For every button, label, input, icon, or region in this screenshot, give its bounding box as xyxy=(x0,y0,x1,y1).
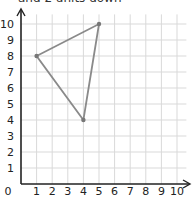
x-tick-label: 8 xyxy=(142,185,149,198)
x-tick-label: 6 xyxy=(111,185,118,198)
coordinate-grid: 01234567891012345678910 xyxy=(0,0,192,198)
vertex-point xyxy=(34,54,38,58)
vertex-point xyxy=(97,22,101,26)
y-tick-label: 9 xyxy=(7,34,14,47)
y-tick-label: 8 xyxy=(7,50,14,63)
y-tick-label: 7 xyxy=(7,66,14,79)
vertex-point xyxy=(81,118,85,122)
x-tick-label: 9 xyxy=(158,185,165,198)
y-tick-label: 4 xyxy=(7,114,14,127)
y-tick-label: 1 xyxy=(7,162,14,175)
y-tick-label: 3 xyxy=(7,130,14,143)
x-tick-label: 7 xyxy=(127,185,134,198)
y-tick-label: 2 xyxy=(7,146,14,159)
x-tick-label: 4 xyxy=(80,185,87,198)
x-tick-label: 5 xyxy=(96,185,103,198)
y-tick-label: 5 xyxy=(7,98,14,111)
y-tick-label: 10 xyxy=(0,18,14,31)
x-tick-label: 2 xyxy=(49,185,56,198)
x-tick-label: 10 xyxy=(170,185,184,198)
x-tick-label: 3 xyxy=(64,185,71,198)
y-tick-label: 6 xyxy=(7,82,14,95)
x-tick-label: 0 xyxy=(5,185,12,198)
x-tick-label: 1 xyxy=(33,185,40,198)
